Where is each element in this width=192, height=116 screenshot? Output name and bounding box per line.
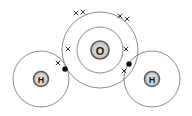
bonding-pair-right-dot-icon [126, 61, 131, 66]
hydrogen-right-symbol-label: H [149, 75, 156, 85]
oxygen-nucleus: O [91, 41, 109, 59]
h2o-electron-shell-diagram: O H H [0, 0, 192, 116]
hydrogen-left-symbol-label: H [38, 75, 45, 85]
oxygen-lone-pair-top-left-cross-b-icon [81, 10, 85, 14]
hydrogen-left-nucleus: H [34, 72, 49, 87]
oxygen-lone-pair-top-left-cross-a-icon [74, 11, 78, 15]
diagram-canvas: O H H [0, 0, 192, 116]
hydrogen-right-nucleus: H [145, 72, 160, 87]
bonding-pair-left-cross-icon [56, 61, 60, 65]
oxygen-symbol-label: O [96, 45, 105, 57]
oxygen-lone-pair-top-right-cross-b-icon [125, 17, 129, 21]
oxygen-inner-shell-cross-left-icon [66, 47, 70, 51]
electron-layer [56, 10, 132, 73]
bonding-pair-left-dot-icon [62, 66, 67, 71]
oxygen-inner-shell-cross-right-icon [124, 47, 128, 51]
